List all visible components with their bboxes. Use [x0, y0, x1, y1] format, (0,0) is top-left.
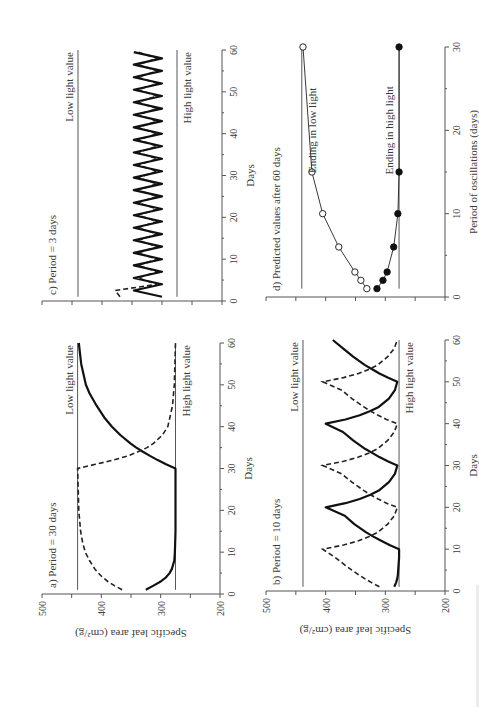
- high-light-label: High light value: [180, 345, 192, 417]
- low-light-label: Low light value: [63, 52, 75, 122]
- x-tick-label: 50: [228, 87, 239, 97]
- open-circle-marker: [364, 285, 370, 291]
- x-axis-label: Days: [467, 454, 479, 477]
- x-tick-label: 50: [226, 380, 237, 390]
- open-circle-marker: [352, 269, 358, 275]
- x-tick-label: 60: [451, 335, 462, 345]
- y-tick-label: 200: [215, 601, 226, 616]
- x-axis-label: Period of oscillations (days): [467, 110, 479, 234]
- high-light-label: High light value: [181, 52, 193, 124]
- y-tick-label: 500: [261, 598, 272, 613]
- x-tick-label: 40: [451, 419, 462, 429]
- x-tick-label: 10: [451, 209, 462, 219]
- x-tick-label: 50: [451, 377, 462, 387]
- x-tick-label: 30: [228, 171, 239, 181]
- y-tick-label: 300: [156, 601, 167, 616]
- filled-circle-marker: [395, 210, 401, 216]
- x-tick-label: 0: [451, 589, 462, 594]
- panel-title: c) Period = 3 days: [46, 215, 59, 295]
- x-axis-label: Days: [242, 457, 254, 480]
- high-light-label: High light value: [403, 342, 415, 414]
- dashed-series-line: [78, 343, 176, 590]
- ending-high-light-label: Ending in high light: [383, 86, 395, 174]
- y-tick-label: 400: [321, 598, 332, 613]
- x-tick-label: 30: [451, 461, 462, 471]
- y-tick-label: 400: [96, 601, 107, 616]
- x-tick-label: 60: [226, 338, 237, 348]
- x-tick-label: 20: [451, 125, 462, 135]
- open-circle-marker: [319, 210, 325, 216]
- x-tick-label: 40: [226, 422, 237, 432]
- open-circle-marker: [300, 44, 306, 50]
- panel-b-period-10: 200300400500Specific leaf area (cm²/g)01…: [261, 335, 479, 637]
- filled-circle-marker: [396, 44, 402, 50]
- filled-circle-marker: [390, 244, 396, 250]
- x-tick-label: 20: [228, 212, 239, 222]
- panel-a-period-30: 200300400500Specific leaf area (cm²/g)01…: [37, 338, 254, 640]
- filled-circle-marker: [384, 269, 390, 275]
- x-tick-label: 0: [226, 592, 237, 597]
- x-tick-label: 60: [228, 45, 239, 55]
- y-axis-label: Specific leaf area (cm²/g): [299, 624, 411, 637]
- panel-title: d) Predicted values after 60 days: [270, 147, 283, 291]
- y-tick-label: 200: [440, 598, 451, 613]
- panel-title: b) Period = 10 days: [270, 499, 283, 585]
- x-tick-label: 30: [451, 42, 462, 52]
- filled-circle-marker: [374, 285, 380, 291]
- x-axis-label: Days: [244, 164, 256, 187]
- y-tick-label: 500: [37, 601, 48, 616]
- ending-low-light-label: Ending in low light: [306, 88, 318, 173]
- x-tick-label: 20: [226, 505, 237, 515]
- solid-series-line: [79, 343, 176, 590]
- filled-circle-marker: [380, 277, 386, 283]
- x-tick-label: 20: [451, 502, 462, 512]
- x-tick-label: 30: [226, 464, 237, 474]
- y-axis-label: Specific leaf area (cm²/g): [75, 627, 187, 640]
- x-tick-label: 10: [228, 254, 239, 264]
- x-tick-label: 40: [228, 129, 239, 139]
- four-panel-figure: 200300400500Specific leaf area (cm²/g)01…: [0, 0, 479, 707]
- x-tick-label: 0: [451, 295, 462, 300]
- panel-c-period-3: 0102030405060Daysc) Period = 3 daysLow l…: [42, 45, 256, 305]
- panel-title: a) Period = 30 days: [46, 502, 59, 588]
- solid-series-line: [134, 52, 162, 297]
- x-tick-label: 0: [228, 299, 239, 304]
- open-circle-marker: [358, 277, 364, 283]
- low-light-label: Low light value: [288, 342, 300, 412]
- filled-circle-marker: [396, 169, 402, 175]
- x-tick-label: 10: [451, 544, 462, 554]
- panel-d-predicted-values: 0102030Period of oscillations (days)d) P…: [266, 42, 479, 301]
- open-circle-marker: [336, 244, 342, 250]
- y-tick-label: 300: [380, 598, 391, 613]
- x-tick-label: 10: [226, 547, 237, 557]
- low-light-label: Low light value: [63, 345, 75, 415]
